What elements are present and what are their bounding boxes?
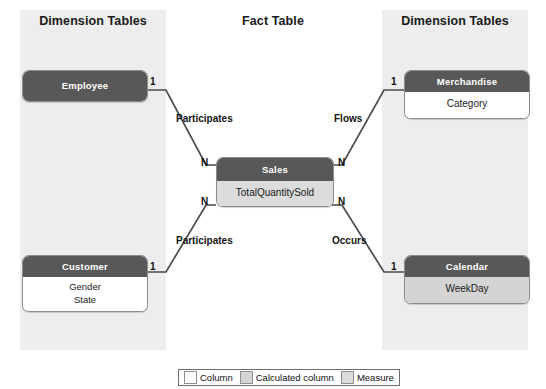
table-header-merchandise: Merchandise bbox=[405, 71, 529, 92]
cardinality-merchandise-one: 1 bbox=[391, 76, 397, 87]
table-header-calendar: Calendar bbox=[405, 256, 529, 277]
legend-swatch-calculated-column-icon bbox=[240, 371, 253, 384]
table-row[interactable]: Category bbox=[405, 96, 529, 112]
table-row[interactable]: WeekDay bbox=[405, 281, 529, 297]
table-header-customer: Customer bbox=[23, 256, 147, 277]
legend-item-calculated-column: Calculated column bbox=[240, 371, 334, 384]
relationship-label-calendar-sales: Occurs bbox=[332, 235, 366, 246]
relationship-label-customer-sales: Participates bbox=[176, 235, 233, 246]
table-rows-sales: TotalQuantitySold bbox=[217, 181, 333, 206]
table-row[interactable]: TotalQuantitySold bbox=[217, 185, 333, 200]
table-row[interactable]: Gender bbox=[23, 280, 147, 293]
table-rows-merchandise: Category bbox=[405, 92, 529, 118]
table-header-sales: Sales bbox=[217, 158, 333, 181]
table-card-employee[interactable]: Employee bbox=[22, 70, 148, 102]
table-card-merchandise[interactable]: Merchandise Category bbox=[404, 70, 530, 119]
legend-label-calculated-column: Calculated column bbox=[256, 372, 334, 383]
connector-merchandise-sales bbox=[332, 90, 404, 165]
table-rows-calendar: WeekDay bbox=[405, 277, 529, 303]
table-header-employee: Employee bbox=[23, 71, 147, 101]
legend-item-measure: Measure bbox=[341, 371, 394, 384]
cardinality-sales-bottom-left: N bbox=[201, 196, 208, 207]
relationship-label-merchandise-sales: Flows bbox=[334, 113, 362, 124]
cardinality-sales-bottom-right: N bbox=[338, 196, 345, 207]
connector-employee-sales bbox=[146, 90, 216, 165]
cardinality-employee-one: 1 bbox=[150, 76, 156, 87]
legend-item-column: Column bbox=[184, 371, 233, 384]
table-row[interactable]: State bbox=[23, 293, 147, 306]
legend-swatch-measure-icon bbox=[341, 371, 354, 384]
legend: Column Calculated column Measure bbox=[178, 369, 400, 386]
relationship-label-employee-sales: Participates bbox=[176, 113, 233, 124]
table-card-calendar[interactable]: Calendar WeekDay bbox=[404, 255, 530, 304]
table-rows-customer: Gender State bbox=[23, 277, 147, 311]
table-card-sales[interactable]: Sales TotalQuantitySold bbox=[216, 157, 334, 207]
cardinality-customer-one: 1 bbox=[150, 261, 156, 272]
legend-swatch-column-icon bbox=[184, 371, 197, 384]
legend-label-measure: Measure bbox=[357, 372, 394, 383]
diagram-canvas: Dimension Tables Fact Table Dimension Ta… bbox=[0, 0, 546, 389]
table-card-customer[interactable]: Customer Gender State bbox=[22, 255, 148, 312]
legend-label-column: Column bbox=[200, 372, 233, 383]
cardinality-calendar-one: 1 bbox=[391, 261, 397, 272]
cardinality-sales-top-left: N bbox=[201, 157, 208, 168]
cardinality-sales-top-right: N bbox=[338, 157, 345, 168]
